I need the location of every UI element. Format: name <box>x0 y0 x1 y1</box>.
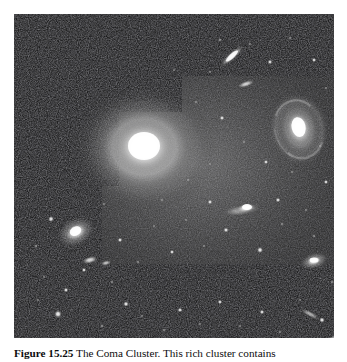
figure-page: Figure 15.25 The Coma Cluster. This rich… <box>0 0 347 362</box>
figure-label: Figure 15.25 <box>14 347 73 359</box>
coma-cluster-plate-svg <box>14 14 334 338</box>
coma-cluster-image <box>14 14 334 338</box>
figure-caption: Figure 15.25 The Coma Cluster. This rich… <box>14 347 336 360</box>
film-grain-overlay <box>14 14 334 338</box>
figure-caption-text: The Coma Cluster. This rich cluster cont… <box>76 347 276 359</box>
